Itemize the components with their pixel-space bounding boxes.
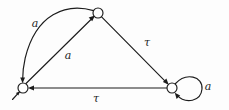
state-node-s0[interactable] [18, 83, 28, 93]
edge-label-a-selfloop: a [205, 81, 212, 92]
initial-state-arrow [13, 91, 21, 99]
edge-a-curve-arrowhead [20, 78, 25, 84]
transition-diagram: a a τ τ a [0, 0, 229, 110]
edge-a-selfloop-path [175, 77, 202, 101]
state-node-s2[interactable] [167, 83, 177, 93]
edge-label-tau-bottom: τ [93, 93, 99, 104]
edge-label-a-curve: a [32, 18, 39, 29]
edge-label-tau-right: τ [144, 37, 150, 48]
edge-tau-bottom [28, 86, 167, 91]
edge-label-a-diagonal: a [65, 50, 72, 61]
edge-tau-bottom-arrowhead [28, 86, 34, 91]
edge-a-selfloop [175, 77, 202, 101]
edge-a-selfloop-arrowhead [175, 93, 180, 99]
edge-tau-right [102, 17, 169, 85]
edge-tau-right-path [102, 17, 167, 83]
state-node-s1[interactable] [93, 8, 103, 18]
